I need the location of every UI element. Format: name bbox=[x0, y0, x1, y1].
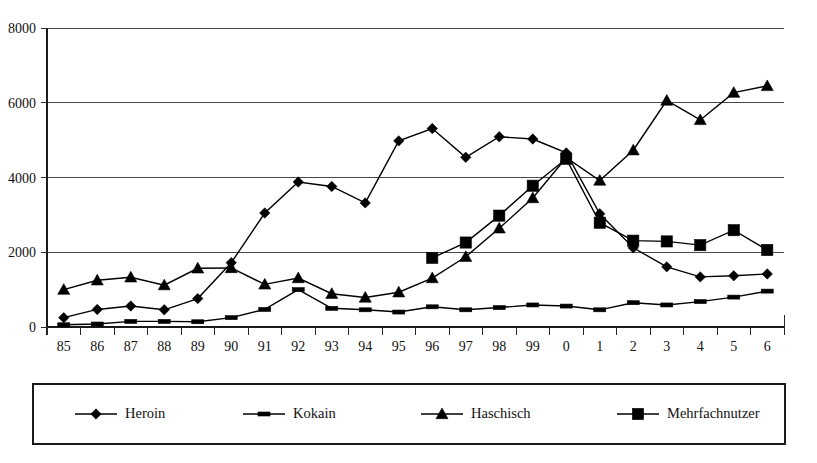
chart-canvas: 02000400060008000 8586878889909192939495… bbox=[0, 0, 817, 463]
data-point-marker bbox=[292, 288, 304, 292]
y-axis-tick-label: 8000 bbox=[8, 21, 36, 36]
data-point-marker bbox=[58, 323, 70, 327]
data-point-marker bbox=[761, 289, 773, 293]
data-point-marker bbox=[225, 316, 237, 320]
line-chart: 02000400060008000 8586878889909192939495… bbox=[0, 0, 817, 463]
x-axis-tick-label: 87 bbox=[124, 339, 138, 354]
legend-label: Mehrfachnutzer bbox=[667, 405, 760, 421]
x-axis-tick-label: 91 bbox=[258, 339, 272, 354]
legend-label: Kokain bbox=[293, 405, 336, 421]
x-axis-tick-label: 96 bbox=[425, 339, 439, 354]
data-point-marker bbox=[493, 306, 505, 310]
data-point-marker bbox=[560, 304, 572, 308]
x-axis-tick-label: 5 bbox=[730, 339, 737, 354]
y-axis-tick-label: 0 bbox=[29, 320, 36, 335]
x-axis-tick-label: 99 bbox=[526, 339, 540, 354]
data-point-marker bbox=[594, 217, 605, 228]
data-point-marker bbox=[728, 295, 740, 299]
data-point-marker bbox=[494, 210, 505, 221]
y-axis-tick-label: 4000 bbox=[8, 171, 36, 186]
data-point-marker bbox=[460, 308, 472, 312]
data-point-marker bbox=[527, 303, 539, 307]
data-point-marker bbox=[426, 305, 438, 309]
data-point-marker bbox=[427, 252, 438, 263]
data-point-marker bbox=[359, 308, 371, 312]
data-point-marker bbox=[695, 240, 706, 251]
x-axis-tick-label: 3 bbox=[663, 339, 670, 354]
x-axis-tick-label: 97 bbox=[459, 339, 473, 354]
x-axis-tick-label: 85 bbox=[57, 339, 71, 354]
x-axis-tick-label: 0 bbox=[563, 339, 570, 354]
data-point-marker bbox=[728, 225, 739, 236]
x-axis-tick-label: 93 bbox=[325, 339, 339, 354]
data-point-marker bbox=[694, 300, 706, 304]
data-point-marker bbox=[460, 237, 471, 248]
x-axis-tick-label: 88 bbox=[157, 339, 171, 354]
data-point-marker bbox=[762, 244, 773, 255]
x-axis-tick-label: 98 bbox=[492, 339, 506, 354]
data-point-marker bbox=[594, 308, 606, 312]
data-point-marker bbox=[91, 322, 103, 326]
x-axis-tick-label: 90 bbox=[224, 339, 238, 354]
data-point-marker bbox=[125, 319, 137, 323]
legend-label: Haschisch bbox=[471, 405, 531, 421]
data-point-marker bbox=[628, 235, 639, 246]
x-axis-tick-label: 94 bbox=[358, 339, 372, 354]
x-axis-tick-label: 2 bbox=[630, 339, 637, 354]
data-point-marker bbox=[326, 306, 338, 310]
x-axis-tick-label: 92 bbox=[291, 339, 305, 354]
data-point-marker bbox=[259, 307, 271, 311]
data-point-marker bbox=[393, 310, 405, 314]
x-axis-tick-label: 89 bbox=[191, 339, 205, 354]
data-point-marker bbox=[192, 320, 204, 324]
x-axis-tick-label: 95 bbox=[392, 339, 406, 354]
data-point-marker bbox=[561, 153, 572, 164]
data-point-marker bbox=[627, 301, 639, 305]
x-axis-tick-label: 6 bbox=[764, 339, 771, 354]
legend-marker-dash-icon bbox=[258, 412, 270, 416]
data-point-marker bbox=[527, 180, 538, 191]
data-point-marker bbox=[158, 319, 170, 323]
x-axis-tick-label: 86 bbox=[90, 339, 104, 354]
data-point-marker bbox=[661, 236, 672, 247]
y-axis-tick-label: 2000 bbox=[8, 245, 36, 260]
x-axis-tick-label: 4 bbox=[697, 339, 704, 354]
chart-background bbox=[0, 0, 817, 463]
legend-marker-square-icon bbox=[632, 408, 643, 419]
legend-label: Heroin bbox=[125, 405, 166, 421]
data-point-marker bbox=[661, 303, 673, 307]
y-axis-tick-label: 6000 bbox=[8, 96, 36, 111]
x-axis-tick-label: 1 bbox=[596, 339, 603, 354]
